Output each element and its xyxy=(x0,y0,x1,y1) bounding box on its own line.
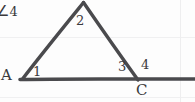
angle-4-annotation: ∠4 xyxy=(0,4,18,19)
side-BC-stroke xyxy=(84,3,139,81)
vertex-label-A: A xyxy=(1,68,12,83)
angle-label-4: 4 xyxy=(141,58,149,71)
side-AB-stroke xyxy=(23,3,84,80)
geometry-diagram-canvas: A C 1 2 3 4 ∠4 xyxy=(0,0,195,102)
angle-label-1: 1 xyxy=(33,65,41,78)
base-line-stroke xyxy=(20,79,195,80)
vertex-label-C: C xyxy=(136,83,147,98)
angle-4-annotation-text: 4 xyxy=(9,4,17,19)
triangle-figure xyxy=(0,0,195,102)
angle-label-3: 3 xyxy=(118,60,126,73)
angle-label-2: 2 xyxy=(76,14,84,27)
